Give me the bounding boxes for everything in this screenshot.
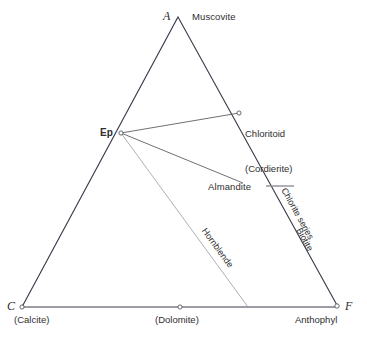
tieline-ep-chloritoid [121,113,239,133]
chloritoid-line-1: Chloritoid [245,128,293,140]
phase-label-calcite: (Calcite) [14,314,49,325]
phase-label-anthophyl: Anthophyl [295,314,337,325]
node-label-chloritoid: Chloritoid (Cordierite) [245,106,293,198]
phase-label-muscovite: Muscovite [192,11,236,22]
node-calcite-marker [20,305,24,309]
vertex-label-f: F [345,299,352,313]
phase-label-almandite: Almandite [208,181,251,192]
node-anthophyl-marker [335,304,339,308]
vertex-label-a: A [163,9,170,23]
vertex-label-c: C [7,299,15,313]
phase-label-dolomite: (Dolomite) [155,314,199,325]
ternary-diagram: A Muscovite Ep Chloritoid (Cordierite) A… [0,0,367,339]
node-chloritoid-marker [237,111,241,115]
node-dolomite-marker [178,305,182,309]
chloritoid-line-2: (Cordierite) [245,163,293,175]
node-ep-marker [119,131,123,135]
ternary-diagram-canvas [0,0,367,339]
node-label-ep: Ep [100,127,113,139]
